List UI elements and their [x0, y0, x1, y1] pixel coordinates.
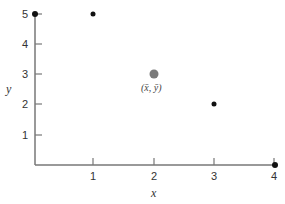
mean-annotation: (x̄, ȳ): [141, 82, 162, 94]
x-tick-label-1: 1: [90, 170, 96, 182]
y-axis-label: y: [5, 82, 12, 96]
x-ticks: [93, 158, 274, 165]
y-tick-label-5: 5: [22, 8, 28, 20]
y-ticks: [35, 14, 42, 135]
data-point: [272, 162, 278, 168]
x-tick-label-2: 2: [151, 170, 157, 182]
x-axis-label: x: [150, 186, 157, 200]
scatter-chart: 5 4 3 2 1 1 2 3 4 x y (x̄, ȳ): [0, 0, 285, 204]
x-tick-label-3: 3: [211, 170, 217, 182]
data-point: [91, 12, 96, 17]
data-point: [32, 11, 38, 17]
mean-point: [150, 70, 159, 79]
y-tick-label-2: 2: [22, 98, 28, 110]
y-tick-label-1: 1: [22, 129, 28, 141]
data-point: [212, 102, 217, 107]
y-tick-label-3: 3: [22, 68, 28, 80]
x-tick-label-4: 4: [271, 170, 277, 182]
y-tick-label-4: 4: [22, 38, 28, 50]
